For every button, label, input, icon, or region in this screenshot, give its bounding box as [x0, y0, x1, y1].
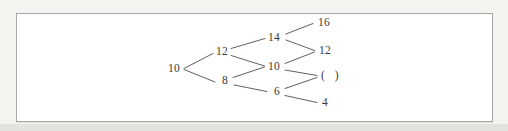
edge-line [184, 70, 215, 83]
node-level1-10: 10 [168, 63, 180, 75]
node-level3-10: 10 [268, 61, 280, 73]
edge-line [231, 56, 265, 67]
node-level2-8: 8 [222, 75, 228, 87]
node-level3-6: 6 [274, 86, 280, 98]
branch-lines-svg [0, 0, 508, 131]
node-level4-blank: ( ) [321, 70, 339, 82]
node-level2-12: 12 [216, 46, 228, 58]
node-level4-16: 16 [318, 17, 330, 29]
node-level4-12: 12 [319, 45, 331, 57]
edge-line [286, 24, 313, 35]
edge-line [285, 70, 317, 76]
node-level3-14: 14 [268, 32, 280, 44]
node-level4-4: 4 [322, 97, 328, 109]
page-background: 10 12 8 14 10 6 16 12 ( ) 4 [0, 0, 508, 131]
edge-line [233, 67, 265, 78]
edge-line [285, 52, 315, 64]
edge-line [286, 40, 315, 51]
edge-line [234, 85, 267, 92]
edge-line [285, 78, 317, 89]
edge-line [184, 54, 213, 69]
edge-line [231, 39, 265, 49]
edge-line [285, 96, 317, 103]
